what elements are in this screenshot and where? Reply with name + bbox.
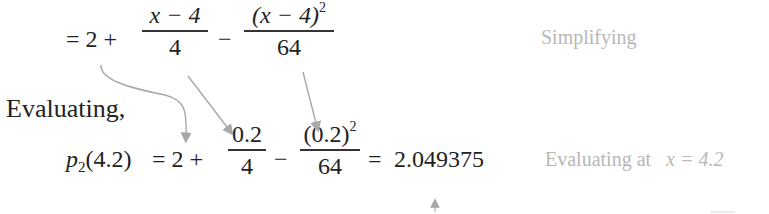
annotation-arrows [0, 0, 769, 214]
arrow-line-icon [303, 72, 317, 127]
arrow-line-icon [188, 76, 230, 131]
arrow-curve-icon [101, 65, 186, 138]
